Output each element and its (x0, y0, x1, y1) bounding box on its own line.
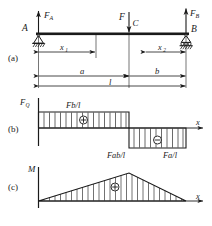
moment-axis-x-label: x (195, 192, 200, 201)
shear-positive-block (39, 112, 130, 128)
support-a-label: A (21, 23, 28, 33)
dim-l-label: l (109, 77, 112, 87)
dim-x1-subscript: 1 (65, 47, 68, 53)
dim-x2: x 2 (146, 43, 186, 53)
moment-peak-value-label: Fab/l (106, 151, 126, 160)
panel-b-label: (b) (8, 124, 19, 134)
moment-axis-y-label: M (27, 164, 36, 174)
panel-a-label: (a) (8, 53, 18, 63)
shear-negative-block (129, 128, 186, 148)
shear-positive-value-label: Fb/l (65, 100, 81, 110)
panel-b-shear: (b) F Q x Fb/l (8, 97, 203, 160)
panel-c-moment: (c) M x (8, 164, 203, 208)
applied-load-label: F (118, 12, 125, 22)
beam-diagram-svg: (a) F A F C F B A B (0, 0, 212, 226)
dim-b: b (130, 66, 186, 77)
panel-c-label: (c) (8, 182, 18, 192)
support-b-label: B (191, 24, 197, 34)
dim-x1: x 1 (39, 43, 95, 53)
dim-b-label: b (155, 66, 160, 76)
dim-x2-label: x (157, 43, 162, 52)
reaction-fa-subscript: A (49, 15, 54, 21)
dim-a-label: a (80, 66, 84, 76)
shear-axis-x-label: x (195, 118, 200, 127)
shear-negative-value-label: Fa/l (162, 151, 178, 160)
reaction-fb-subscript: B (196, 13, 200, 19)
dim-x2-subscript: 2 (163, 47, 166, 53)
panel-a-beam: (a) F A F C F B A B (8, 8, 200, 88)
moment-triangle (39, 173, 187, 201)
dim-x1-label: x (59, 43, 64, 52)
point-c-label: C (133, 18, 140, 28)
dim-a: a (39, 66, 129, 77)
dim-l: l (39, 77, 186, 87)
shear-axis-y-subscript: Q (25, 102, 29, 108)
beam-member (36, 33, 189, 36)
